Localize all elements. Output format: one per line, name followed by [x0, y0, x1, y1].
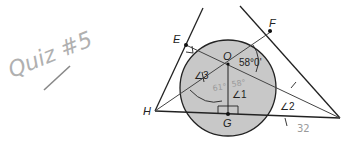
label-f: F: [269, 17, 277, 29]
angle-3-label: ∠3: [194, 70, 209, 81]
label-g: G: [223, 117, 232, 129]
handwritten-underline: [44, 66, 70, 90]
geometry-diagram: E F O G H 58°0' ∠3 ∠1 ∠2 61° 58° 32 Quiz…: [0, 0, 348, 142]
handwritten-quiz-title: Quiz #5: [5, 26, 96, 82]
angle-arrow-2-top: [291, 82, 296, 88]
point-e: [184, 43, 188, 47]
label-e: E: [173, 33, 181, 45]
angle-1-label: ∠1: [232, 89, 247, 100]
given-angle-label: 58°0': [239, 57, 262, 68]
angle-2-label: ∠2: [280, 101, 295, 112]
point-f: [268, 29, 272, 33]
angle-arrow-2-bottom: [285, 118, 287, 126]
label-h: H: [143, 105, 151, 117]
handwritten-32: 32: [297, 123, 310, 134]
point-o: [226, 62, 229, 65]
point-g: [226, 112, 230, 116]
label-o: O: [223, 50, 232, 62]
